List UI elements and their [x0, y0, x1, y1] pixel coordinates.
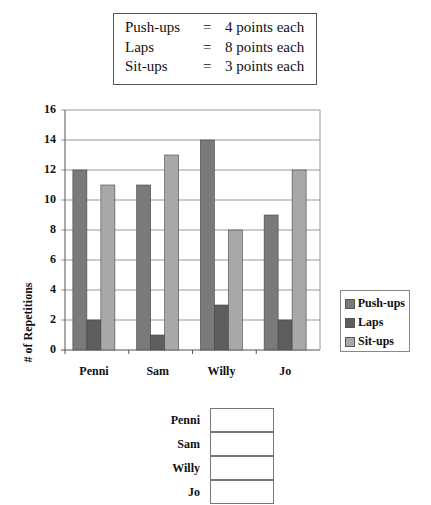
- key-row-pushups: Push-ups = 4 points each: [125, 18, 316, 38]
- bar-laps-penni: [87, 320, 101, 350]
- x-tick-label: Sam: [126, 364, 190, 379]
- legend-item-situps: Sit-ups: [345, 332, 405, 351]
- legend-item-laps: Laps: [345, 313, 405, 332]
- score-cell[interactable]: [210, 456, 274, 480]
- key-activity: Laps: [125, 38, 203, 58]
- key-points: 8 points each: [225, 38, 304, 58]
- legend-swatch: [345, 299, 355, 309]
- score-cell[interactable]: [210, 408, 274, 432]
- bar-laps-sam: [151, 335, 165, 350]
- chart-legend: Push-ups Laps Sit-ups: [340, 290, 410, 352]
- score-row-sam: Sam: [150, 432, 274, 456]
- bar-sit-ups-willy: [228, 230, 242, 350]
- key-equals: =: [203, 18, 225, 38]
- key-points: 4 points each: [225, 18, 304, 38]
- bar-sit-ups-penni: [101, 185, 115, 350]
- score-row-jo: Jo: [150, 480, 274, 504]
- bar-sit-ups-sam: [165, 155, 179, 350]
- legend-label: Sit-ups: [358, 334, 394, 349]
- key-points: 3 points each: [225, 57, 304, 77]
- points-key-box: Push-ups = 4 points each Laps = 8 points…: [113, 13, 317, 85]
- score-name: Willy: [150, 461, 210, 476]
- key-equals: =: [203, 57, 225, 77]
- bar-push-ups-sam: [137, 185, 151, 350]
- legend-swatch: [345, 337, 355, 347]
- bar-laps-jo: [278, 320, 292, 350]
- bar-sit-ups-jo: [292, 170, 306, 350]
- score-name: Penni: [150, 413, 210, 428]
- repetitions-bar-chart: # of Repetitions 0246810121416 PenniSamW…: [0, 95, 431, 385]
- key-activity: Push-ups: [125, 18, 203, 38]
- score-name: Jo: [150, 485, 210, 500]
- score-row-willy: Willy: [150, 456, 274, 480]
- score-cell[interactable]: [210, 480, 274, 504]
- bar-laps-willy: [214, 305, 228, 350]
- key-row-laps: Laps = 8 points each: [125, 38, 316, 58]
- bar-push-ups-jo: [264, 215, 278, 350]
- x-tick-label: Jo: [253, 364, 317, 379]
- score-row-penni: Penni: [150, 408, 274, 432]
- key-activity: Sit-ups: [125, 57, 203, 77]
- key-equals: =: [203, 38, 225, 58]
- score-table: Penni Sam Willy Jo: [150, 408, 274, 504]
- legend-swatch: [345, 318, 355, 328]
- score-cell[interactable]: [210, 432, 274, 456]
- key-row-situps: Sit-ups = 3 points each: [125, 57, 316, 77]
- score-name: Sam: [150, 437, 210, 452]
- x-tick-label: Penni: [62, 364, 126, 379]
- legend-item-pushups: Push-ups: [345, 294, 405, 313]
- bar-push-ups-penni: [73, 170, 87, 350]
- bar-push-ups-willy: [200, 140, 214, 350]
- legend-label: Laps: [358, 315, 383, 330]
- legend-label: Push-ups: [358, 296, 405, 311]
- x-tick-label: Willy: [190, 364, 254, 379]
